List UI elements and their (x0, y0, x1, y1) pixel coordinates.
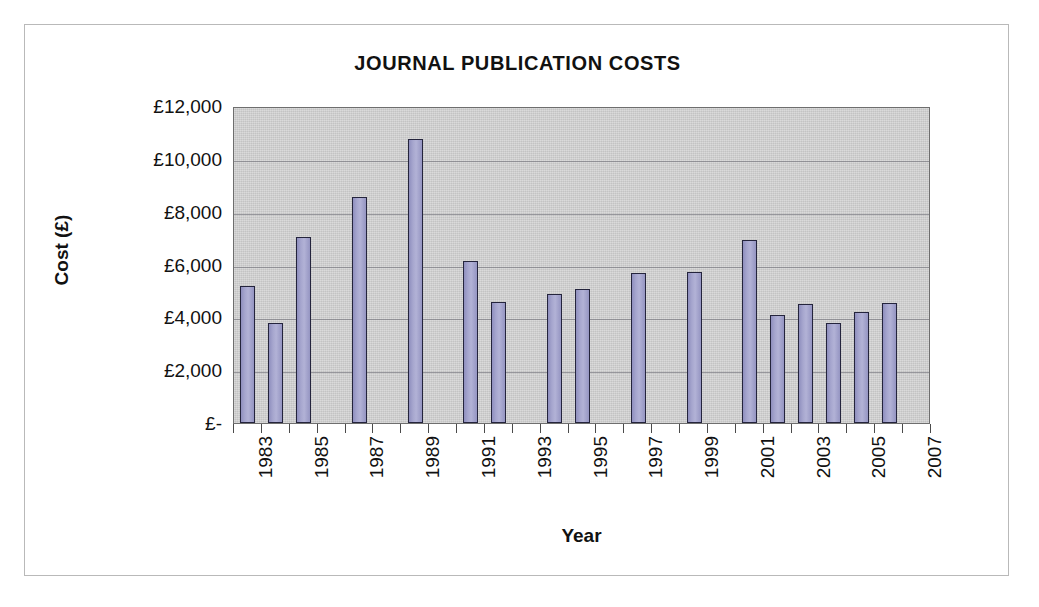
bar (352, 197, 367, 423)
bar (882, 303, 897, 423)
x-axis-tick-label: 2001 (757, 436, 779, 478)
bar (826, 323, 841, 423)
x-axis-tick (512, 424, 513, 433)
y-axis-tick-label: £- (75, 413, 222, 435)
bar (547, 294, 562, 423)
x-axis-tick (874, 424, 875, 433)
x-axis-tick (763, 424, 764, 433)
bar (463, 261, 478, 423)
x-axis-tick (902, 424, 903, 433)
y-axis-tick-label: £12,000 (75, 96, 222, 118)
x-axis-tick (484, 424, 485, 433)
bar (631, 273, 646, 423)
bar (770, 315, 785, 423)
y-axis-tick-labels: £12,000£10,000£8,000£6,000£4,000£2,000£- (75, 107, 222, 424)
bar (268, 323, 283, 423)
bar (296, 237, 311, 423)
x-axis-tick-label: 1985 (311, 436, 333, 478)
chart-title: JOURNAL PUBLICATION COSTS (25, 52, 1010, 75)
bar (575, 289, 590, 423)
x-axis-tick (400, 424, 401, 433)
bar (240, 286, 255, 423)
bar (798, 304, 813, 423)
x-axis-tick-label: 1989 (422, 436, 444, 478)
x-axis-tick (846, 424, 847, 433)
x-axis-tick-label: 1999 (701, 436, 723, 478)
x-axis-tick-label: 1997 (645, 436, 667, 478)
y-axis-tick-label: £10,000 (75, 149, 222, 171)
x-axis-tick-label: 1987 (366, 436, 388, 478)
x-axis-tick (930, 424, 931, 433)
x-axis-tick-label: 1991 (478, 436, 500, 478)
gridline (234, 267, 929, 268)
bar (491, 302, 506, 423)
x-axis-tick (679, 424, 680, 433)
x-axis-tick-label: 2005 (868, 436, 890, 478)
y-axis-tick-label: £8,000 (75, 202, 222, 224)
x-axis-tick (791, 424, 792, 433)
x-axis-tick (372, 424, 373, 433)
x-axis-tick (818, 424, 819, 433)
x-axis-tick (623, 424, 624, 433)
bar (687, 272, 702, 423)
x-axis-tick (707, 424, 708, 433)
x-axis-tick-label: 1993 (534, 436, 556, 478)
y-axis-title: Cost (£) (51, 180, 73, 320)
bar (408, 139, 423, 423)
x-axis-tick (317, 424, 318, 433)
x-axis-tick-label: 2003 (813, 436, 835, 478)
bar (742, 240, 757, 423)
x-axis-tick (595, 424, 596, 433)
x-axis-tick (345, 424, 346, 433)
chart-frame: JOURNAL PUBLICATION COSTS Cost (£) £12,0… (24, 24, 1009, 576)
x-axis-tick-label: 1995 (590, 436, 612, 478)
gridline (234, 161, 929, 162)
x-axis-tick (456, 424, 457, 433)
x-axis-tick (233, 424, 234, 433)
x-axis-tick-label: 1983 (255, 436, 277, 478)
x-axis-tick (651, 424, 652, 433)
bar (854, 312, 869, 423)
y-axis-tick-label: £6,000 (75, 255, 222, 277)
x-axis-title: Year (233, 525, 930, 547)
x-axis-tick (540, 424, 541, 433)
y-axis-tick-label: £2,000 (75, 360, 222, 382)
y-axis-tick-label: £4,000 (75, 307, 222, 329)
plot-area (233, 107, 930, 424)
x-axis-tick (261, 424, 262, 433)
x-axis-tick (289, 424, 290, 433)
x-axis-tick-label: 2007 (924, 436, 946, 478)
x-axis-tick (735, 424, 736, 433)
x-axis-tick (568, 424, 569, 433)
x-axis-tick (428, 424, 429, 433)
gridline (234, 214, 929, 215)
